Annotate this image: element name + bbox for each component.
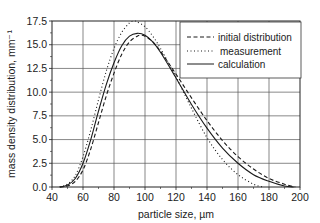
- x-axis-label: particle size, µm: [138, 208, 214, 220]
- line-chart: 406080100120140160180200 0.02.55.07.510.…: [0, 0, 320, 223]
- x-tick-label: 100: [136, 191, 154, 203]
- x-tick-label: 140: [198, 191, 216, 203]
- y-tick-label: 7.5: [32, 109, 47, 121]
- y-axis-label: mass density distribution, mm⁻¹: [5, 30, 17, 178]
- y-tick-label: 12.5: [27, 62, 48, 74]
- legend: initial distribution measurement calcula…: [180, 22, 301, 78]
- x-tick-label: 180: [260, 191, 278, 203]
- x-tick-label: 200: [291, 191, 309, 203]
- x-tick-label: 120: [167, 191, 185, 203]
- x-tick-label: 60: [77, 191, 89, 203]
- y-axis-tick-labels: 0.02.55.07.510.012.515.017.5: [27, 15, 48, 193]
- y-tick-label: 5.0: [32, 133, 47, 145]
- y-tick-label: 17.5: [27, 15, 48, 27]
- x-tick-label: 160: [229, 191, 247, 203]
- x-axis-tick-labels: 406080100120140160180200: [46, 191, 309, 203]
- y-tick-label: 10.0: [27, 86, 48, 98]
- y-tick-label: 15.0: [27, 38, 48, 50]
- y-tick-label: 0.0: [32, 181, 47, 193]
- x-tick-label: 40: [46, 191, 58, 203]
- legend-label-measurement: measurement: [220, 46, 281, 57]
- legend-label-initial: initial distribution: [218, 32, 292, 43]
- x-tick-label: 80: [108, 191, 120, 203]
- legend-label-calculation: calculation: [218, 59, 265, 70]
- y-tick-label: 2.5: [32, 157, 47, 169]
